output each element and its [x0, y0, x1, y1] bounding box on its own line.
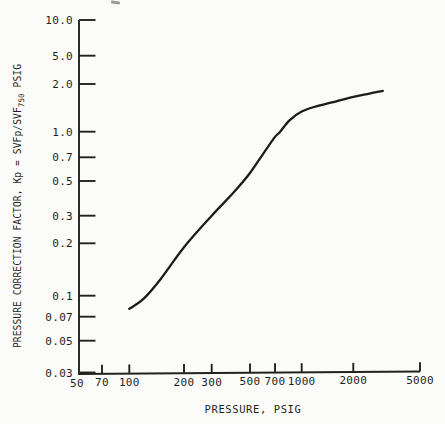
axis-spines — [79, 20, 420, 374]
y-tick-label: 0.03 — [45, 367, 73, 380]
x-axis-title: PRESSURE, PSIG — [205, 403, 302, 415]
y-tick-label: 0.1 — [52, 290, 73, 303]
x-tick-label: 700 — [265, 375, 286, 388]
y-axis-title-main: PRESSURE CORRECTION FACTOR, Kp = SVFp/SV… — [12, 107, 23, 348]
chart-generated-content: 10.05.02.01.00.70.50.30.20.10.070.050.03… — [45, 14, 434, 390]
y-tick-label: 5.0 — [52, 50, 73, 63]
y-tick-label: 2.0 — [52, 78, 73, 91]
x-tick-label: 70 — [95, 376, 109, 389]
y-tick-label: 0.07 — [45, 311, 73, 324]
x-tick-label: 200 — [174, 376, 195, 389]
x-tick-label: 100 — [119, 376, 140, 389]
pressure-correction-chart: 10.05.02.01.00.70.50.30.20.10.070.050.03… — [0, 0, 445, 424]
y-axis-title-tail: PSIG — [12, 64, 23, 94]
scanned-chart-page: 10.05.02.01.00.70.50.30.20.10.070.050.03… — [0, 0, 445, 424]
y-tick-label: 10.0 — [45, 14, 73, 27]
x-tick-label: 1000 — [288, 375, 316, 388]
x-tick-label: 50 — [70, 377, 84, 390]
y-tick-label: 0.2 — [52, 237, 73, 250]
x-tick-label: 5000 — [406, 374, 434, 387]
y-axis-title: PRESSURE CORRECTION FACTOR, Kp = SVFp/SV… — [12, 64, 26, 348]
x-tick-label: 2000 — [339, 374, 367, 387]
kp-curve — [129, 91, 382, 309]
y-tick-label: 1.0 — [52, 126, 73, 139]
y-tick-label: 0.5 — [52, 175, 73, 188]
y-axis-title-subscript-750: 750 — [17, 93, 26, 107]
x-tick-label: 500 — [240, 375, 261, 388]
y-tick-label: 0.3 — [52, 210, 73, 223]
x-tick-label: 300 — [201, 376, 222, 389]
y-tick-label: 0.05 — [45, 335, 73, 348]
y-tick-label: 0.7 — [52, 151, 73, 164]
